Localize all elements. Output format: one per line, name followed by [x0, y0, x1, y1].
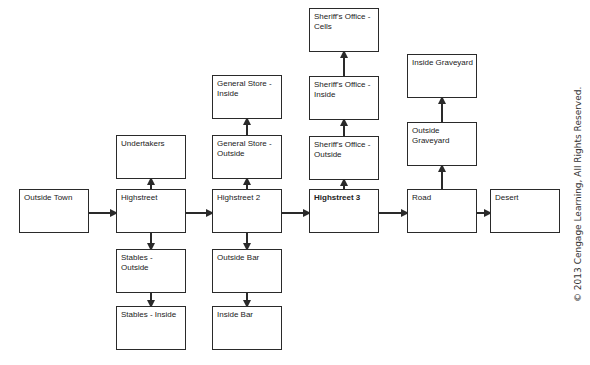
node-label: Outside Graveyard — [412, 126, 473, 146]
node-label: Sheriff's Office - Outside — [314, 140, 375, 160]
node-outside-town: Outside Town — [19, 189, 89, 233]
node-label: Undertakers — [121, 139, 182, 149]
node-label: Highstreet — [121, 193, 182, 203]
node-desert: Desert — [490, 189, 560, 233]
node-label: Outside Town — [24, 193, 85, 203]
node-label: Inside Graveyard — [412, 58, 473, 68]
edges-layer — [0, 0, 590, 365]
node-highstreet-3: Highstreet 3 — [309, 189, 379, 233]
node-label: Road — [412, 193, 473, 203]
node-sheriffs-office-cells: Sheriff's Office - Cells — [309, 8, 379, 52]
node-label: General Store - Outside — [217, 139, 278, 159]
node-inside-graveyard: Inside Graveyard — [407, 54, 477, 98]
node-highstreet: Highstreet — [116, 189, 186, 233]
node-label: Stables - Outside — [121, 253, 182, 273]
node-undertakers: Undertakers — [116, 135, 186, 179]
node-stables-outside: Stables - Outside — [116, 249, 186, 293]
node-label: Sheriff's Office - Inside — [314, 80, 375, 100]
node-label: Desert — [495, 193, 556, 203]
node-outside-bar: Outside Bar — [212, 249, 282, 293]
node-label: Highstreet 2 — [217, 193, 278, 203]
level-flow-diagram: Outside TownHighstreetUndertakersStables… — [0, 0, 590, 365]
node-highstreet-2: Highstreet 2 — [212, 189, 282, 233]
node-label: Stables - Inside — [121, 310, 182, 320]
node-general-store-inside: General Store - Inside — [212, 75, 282, 119]
node-label: Sheriff's Office - Cells — [314, 12, 375, 32]
node-label: Outside Bar — [217, 253, 278, 263]
node-label: General Store - Inside — [217, 79, 278, 99]
node-general-store-outside: General Store - Outside — [212, 135, 282, 179]
node-outside-graveyard: Outside Graveyard — [407, 122, 477, 166]
node-road: Road — [407, 189, 477, 233]
node-label: Inside Bar — [217, 310, 278, 320]
node-sheriffs-office-outside: Sheriff's Office - Outside — [309, 136, 379, 180]
node-sheriffs-office-inside: Sheriff's Office - Inside — [309, 76, 379, 120]
node-stables-inside: Stables - Inside — [116, 306, 186, 350]
node-inside-bar: Inside Bar — [212, 306, 282, 350]
copyright-notice: © 2013 Cengage Learning, All Rights Rese… — [573, 87, 583, 302]
node-label: Highstreet 3 — [314, 193, 375, 203]
